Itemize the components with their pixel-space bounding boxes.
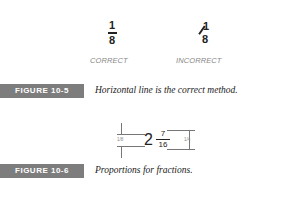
- incorrect-fraction: 1 8: [196, 20, 216, 46]
- figure-tag: FIGURE 10-6: [0, 164, 84, 178]
- dimension-line: [167, 130, 195, 131]
- right-dimension: 1/4: [184, 137, 190, 142]
- figure-caption: Horizontal line is the correct method.: [95, 85, 238, 95]
- numerator: 1: [102, 20, 122, 31]
- denominator: 8: [202, 33, 208, 45]
- dimension-line: [117, 134, 145, 135]
- dimension-line: [167, 149, 195, 150]
- denominator: 8: [102, 35, 122, 46]
- incorrect-label: INCORRECT: [176, 56, 221, 65]
- correct-label: CORRECT: [90, 56, 128, 65]
- whole-number: 2: [144, 131, 153, 149]
- fraction-proportion-diagram: 1/8 2 7 16 1/4: [110, 120, 200, 170]
- figure-tag: FIGURE 10-5: [0, 84, 84, 98]
- figure-caption: Proportions for fractions.: [95, 165, 193, 175]
- numerator: 7: [156, 130, 170, 138]
- correct-fraction: 1 8: [102, 20, 122, 46]
- left-dimension: 1/8: [117, 137, 123, 142]
- denominator: 16: [156, 141, 170, 149]
- mixed-fraction: 7 16: [156, 130, 170, 149]
- arrow-up-icon: [121, 146, 122, 158]
